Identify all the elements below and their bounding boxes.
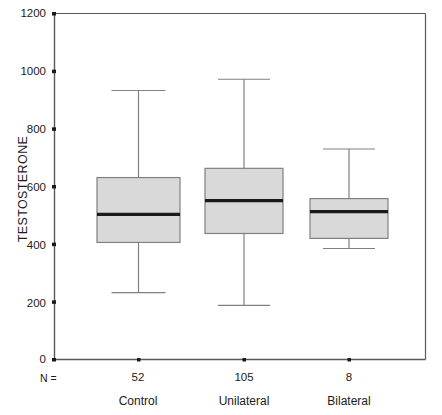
y-tick-mark-800 [52,127,56,131]
x-tick-mark-bilateral [348,358,352,362]
iqr-box[interactable] [97,178,180,243]
box-plot-group-control [97,90,180,292]
x-tick-mark-control [137,358,141,362]
plot-area [0,0,442,415]
n-value-unilateral: 105 [209,371,279,383]
x-tick-mark-unilateral [243,358,247,362]
box-plot-group-bilateral [310,149,388,248]
iqr-box[interactable] [310,199,388,239]
y-tick-mark-0 [52,358,56,362]
box-plot-chart: TESTOSTERONE 1200 1000 800 600 400 200 0… [0,0,442,415]
n-value-control: 52 [103,371,173,383]
y-tick-mark-600 [52,185,56,189]
category-label-bilateral: Bilateral [294,394,404,408]
category-label-unilateral: Unilateral [189,394,299,408]
y-tick-mark-1000 [52,70,56,74]
y-tick-mark-400 [52,243,56,247]
y-tick-mark-200 [52,300,56,304]
n-value-bilateral: 8 [314,371,384,383]
box-plot-group-unilateral [205,79,283,305]
n-equals-label: N = [40,372,57,384]
y-tick-mark-1200 [52,12,56,16]
category-label-control: Control [83,394,193,408]
